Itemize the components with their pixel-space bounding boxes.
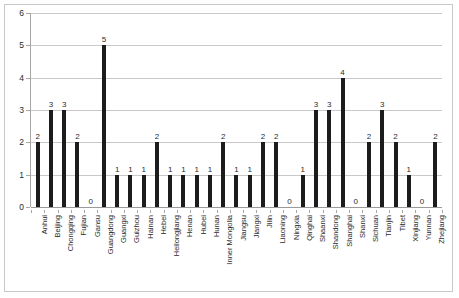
bar-item[interactable]: 1 — [137, 13, 150, 207]
bar-item[interactable]: 5 — [97, 13, 110, 207]
bar-value-label: 0 — [354, 198, 358, 206]
bar-rect[interactable] — [181, 175, 185, 207]
bar-item[interactable]: 1 — [243, 13, 256, 207]
x-axis-tick-mark — [296, 210, 297, 213]
bar-rect[interactable] — [168, 175, 172, 207]
bar-rect[interactable] — [221, 142, 225, 207]
bar-item[interactable]: 2 — [270, 13, 283, 207]
bar-rect[interactable] — [36, 142, 40, 207]
x-axis-tick-mark — [309, 210, 310, 213]
bar-rect[interactable] — [142, 175, 146, 207]
bar-rect[interactable] — [195, 175, 199, 207]
x-axis-tick-mark — [203, 210, 204, 213]
bar-rect[interactable] — [155, 142, 159, 207]
bar-item[interactable]: 2 — [389, 13, 402, 207]
bar-rect[interactable] — [128, 175, 132, 207]
bar-item[interactable]: 2 — [429, 13, 442, 207]
y-axis-tick-label: 0 — [19, 203, 24, 212]
bar-rect[interactable] — [327, 110, 331, 207]
bar-rect[interactable] — [274, 142, 278, 207]
bar-item[interactable]: 3 — [376, 13, 389, 207]
bar-item[interactable]: 2 — [71, 13, 84, 207]
bar-rect[interactable] — [261, 142, 265, 207]
x-axis-tick-mark — [71, 210, 72, 213]
bar-item[interactable]: 1 — [296, 13, 309, 207]
x-axis-category-label: Jiangxi — [253, 215, 261, 238]
y-axis-tick-label: 2 — [19, 138, 24, 147]
bar-value-label: 2 — [367, 133, 371, 141]
bar-rect[interactable] — [341, 78, 345, 207]
x-axis-category-label: Anhui — [41, 215, 49, 234]
bar-item[interactable]: 1 — [111, 13, 124, 207]
x-axis-category-label: Chongqing — [67, 215, 75, 251]
x-axis-category-label: Sichuan — [372, 215, 380, 242]
bar-rect[interactable] — [248, 175, 252, 207]
bar-rect[interactable] — [75, 142, 79, 207]
bar-item[interactable]: 1 — [190, 13, 203, 207]
y-axis-tick-mark — [26, 207, 30, 208]
bar-rect[interactable] — [234, 175, 238, 207]
bar-item[interactable]: 4 — [336, 13, 349, 207]
bar-value-label: 2 — [155, 133, 159, 141]
bar-item[interactable]: 1 — [164, 13, 177, 207]
bar-item[interactable]: 1 — [177, 13, 190, 207]
bar-rect[interactable] — [380, 110, 384, 207]
bar-value-label: 2 — [433, 133, 437, 141]
y-axis-tick-label: 4 — [19, 73, 24, 82]
x-axis-category-label: Shanxi — [359, 215, 367, 238]
bar-value-label: 1 — [168, 166, 172, 174]
bar-rect[interactable] — [49, 110, 53, 207]
bar-rect[interactable] — [433, 142, 437, 207]
x-axis-tick-mark — [150, 210, 151, 213]
bar-value-label: 2 — [393, 133, 397, 141]
bar-value-label: 3 — [380, 101, 384, 109]
bar-item[interactable]: 2 — [217, 13, 230, 207]
bar-rect[interactable] — [407, 175, 411, 207]
y-axis-tick-mark — [26, 110, 30, 111]
bar-rect[interactable] — [301, 175, 305, 207]
x-axis-tick-mark — [230, 210, 231, 213]
bar-item[interactable]: 2 — [31, 13, 44, 207]
bar-item[interactable]: 1 — [203, 13, 216, 207]
bar-item[interactable]: 1 — [402, 13, 415, 207]
bar-value-label: 2 — [75, 133, 79, 141]
bar-value-label: 3 — [49, 101, 53, 109]
bar-rect[interactable] — [394, 142, 398, 207]
bar-item[interactable]: 0 — [415, 13, 428, 207]
bar-rect[interactable] — [314, 110, 318, 207]
bar-item[interactable]: 2 — [150, 13, 163, 207]
bar-rect[interactable] — [62, 110, 66, 207]
bar-value-label: 0 — [88, 198, 92, 206]
bar-item[interactable]: 3 — [309, 13, 322, 207]
bar-item[interactable]: 0 — [349, 13, 362, 207]
x-axis-category-label: Jilin — [266, 215, 274, 228]
x-axis-category-label: Xinjiang — [412, 215, 420, 242]
x-axis-category-label: Beijing — [54, 215, 62, 238]
x-axis-tick-mark — [402, 210, 403, 213]
bar-rect[interactable] — [115, 175, 119, 207]
bar-rect[interactable] — [208, 175, 212, 207]
x-axis-tick-mark — [336, 210, 337, 213]
bar-item[interactable]: 3 — [58, 13, 71, 207]
y-axis-tick-mark — [26, 175, 30, 176]
bar-value-label: 4 — [340, 69, 344, 77]
y-axis-tick-mark — [26, 13, 30, 14]
x-axis-category-label: Henan — [186, 215, 194, 237]
x-axis-category-label: Guangdong — [107, 215, 115, 254]
bar-item[interactable]: 0 — [84, 13, 97, 207]
x-axis-category-label: Zhejiang — [438, 215, 446, 244]
bar-rect[interactable] — [102, 45, 106, 207]
x-axis-tick-mark — [256, 210, 257, 213]
bar-rect[interactable] — [367, 142, 371, 207]
x-axis-tick-mark — [243, 210, 244, 213]
x-axis-tick-mark — [442, 210, 443, 213]
x-axis-category-label: Inner Mongolia — [226, 215, 234, 265]
bar-item[interactable]: 2 — [256, 13, 269, 207]
bar-item[interactable]: 1 — [230, 13, 243, 207]
x-axis-tick-mark — [217, 210, 218, 213]
bar-item[interactable]: 1 — [124, 13, 137, 207]
bar-item[interactable]: 0 — [283, 13, 296, 207]
bar-item[interactable]: 3 — [323, 13, 336, 207]
bar-item[interactable]: 2 — [362, 13, 375, 207]
bar-item[interactable]: 3 — [44, 13, 57, 207]
